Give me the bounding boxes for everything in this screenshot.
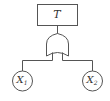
basic-event-x1-subscript: 1 bbox=[24, 79, 28, 86]
or-gate-icon bbox=[47, 34, 69, 57]
basic-event-x1-text: X bbox=[17, 74, 24, 85]
basic-event-x2-subscript: 2 bbox=[94, 79, 98, 86]
basic-event-x2-text: X bbox=[87, 74, 94, 85]
top-event-text: T bbox=[53, 8, 60, 21]
basic-event-x2-label: X2 bbox=[82, 75, 102, 86]
branch-line-x1 bbox=[23, 61, 53, 72]
basic-event-x1-label: X1 bbox=[12, 75, 32, 86]
branch-line-x2 bbox=[63, 61, 93, 72]
top-event-label: T bbox=[37, 9, 77, 20]
